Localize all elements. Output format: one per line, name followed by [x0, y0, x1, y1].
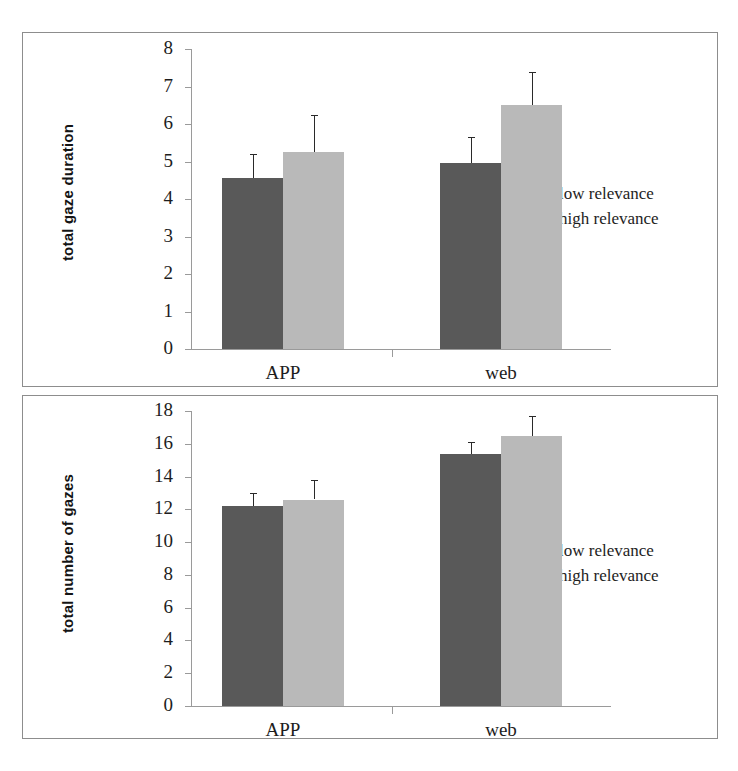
y-axis-tick-label: 12 — [125, 498, 173, 517]
y-axis-tick-label: 0 — [125, 695, 173, 714]
y-axis-tick — [185, 312, 191, 313]
legend-label-low-relevance: low relevance — [559, 541, 654, 561]
y-axis-tick — [185, 237, 191, 238]
error-bar-web-low-relevance — [471, 442, 472, 453]
bar-web-low-relevance — [440, 163, 501, 349]
error-bar-cap — [311, 480, 318, 481]
y-axis-tick — [185, 274, 191, 275]
y-axis-tick — [185, 199, 191, 200]
y-axis-tick-label: 10 — [125, 531, 173, 550]
y-axis-tick — [185, 124, 191, 125]
error-bar-app-low-relevance — [253, 493, 254, 506]
bar-app-high-relevance — [283, 152, 344, 349]
figure-two-panel-bar-charts: total gaze duration low relevance high r… — [0, 0, 738, 771]
bar-web-high-relevance — [501, 436, 562, 706]
x-axis-category-label-app: APP — [213, 720, 353, 739]
y-axis-title-bottom: total number of gazes — [59, 436, 76, 671]
error-bar-cap — [250, 493, 257, 494]
y-axis-tick-label: 18 — [125, 400, 173, 419]
y-axis-tick — [185, 706, 191, 707]
y-axis-tick-label: 14 — [125, 466, 173, 485]
y-axis-tick-label: 3 — [125, 226, 173, 245]
error-bar-cap — [529, 416, 536, 417]
y-axis-tick — [185, 509, 191, 510]
y-axis-tick-label: 4 — [125, 629, 173, 648]
bar-app-low-relevance — [222, 506, 283, 706]
y-axis-tick — [185, 349, 191, 350]
y-axis-tick — [185, 49, 191, 50]
error-bar-cap — [311, 115, 318, 116]
bar-app-high-relevance — [283, 500, 344, 707]
x-axis-category-label-web: web — [431, 720, 571, 739]
error-bar-app-high-relevance — [314, 115, 315, 153]
y-axis-tick — [185, 542, 191, 543]
y-axis-tick-label: 1 — [125, 301, 173, 320]
chart-panel-total-number-of-gazes: total number of gazes low relevance high… — [22, 395, 718, 739]
y-axis-tick — [185, 444, 191, 445]
error-bar-cap — [529, 72, 536, 73]
x-axis-line — [191, 349, 611, 350]
error-bar-cap — [250, 154, 257, 155]
y-axis-tick-label: 5 — [125, 151, 173, 170]
y-axis-tick-label: 6 — [125, 597, 173, 616]
error-bar-web-high-relevance — [532, 72, 533, 106]
error-bar-web-low-relevance — [471, 137, 472, 163]
x-axis-category-separator-tick — [392, 707, 393, 714]
legend-label-high-relevance: high relevance — [559, 566, 659, 586]
y-axis-tick — [185, 608, 191, 609]
plot-area-bottom: total number of gazes low relevance high… — [23, 396, 717, 738]
x-axis-category-label-web: web — [431, 363, 571, 382]
y-axis-tick-label: 8 — [125, 564, 173, 583]
y-axis-line — [191, 411, 192, 707]
error-bar-cap — [468, 137, 475, 138]
y-axis-tick-label: 7 — [125, 76, 173, 95]
y-axis-tick-label: 0 — [125, 338, 173, 357]
x-axis-category-separator-tick — [392, 350, 393, 357]
y-axis-tick-label: 8 — [125, 38, 173, 57]
y-axis-tick — [185, 640, 191, 641]
legend-label-high-relevance: high relevance — [559, 209, 659, 229]
y-axis-tick-label: 6 — [125, 113, 173, 132]
y-axis-tick — [185, 162, 191, 163]
y-axis-tick-label: 16 — [125, 433, 173, 452]
chart-panel-total-gaze-duration: total gaze duration low relevance high r… — [22, 32, 718, 387]
y-axis-tick — [185, 575, 191, 576]
y-axis-tick-label: 4 — [125, 188, 173, 207]
legend-label-low-relevance: low relevance — [559, 184, 654, 204]
bar-web-high-relevance — [501, 105, 562, 349]
x-axis-line — [191, 706, 611, 707]
error-bar-app-low-relevance — [253, 154, 254, 178]
y-axis-tick — [185, 411, 191, 412]
y-axis-tick-label: 2 — [125, 662, 173, 681]
y-axis-tick-label: 2 — [125, 263, 173, 282]
bar-app-low-relevance — [222, 178, 283, 349]
x-axis-category-label-app: APP — [213, 363, 353, 382]
plot-area-top: total gaze duration low relevance high r… — [23, 33, 717, 386]
error-bar-cap — [468, 442, 475, 443]
y-axis-tick — [185, 477, 191, 478]
error-bar-web-high-relevance — [532, 416, 533, 436]
bar-web-low-relevance — [440, 454, 501, 706]
y-axis-line — [191, 49, 192, 350]
error-bar-app-high-relevance — [314, 480, 315, 500]
y-axis-tick — [185, 673, 191, 674]
y-axis-tick — [185, 87, 191, 88]
y-axis-title-top: total gaze duration — [59, 85, 76, 300]
